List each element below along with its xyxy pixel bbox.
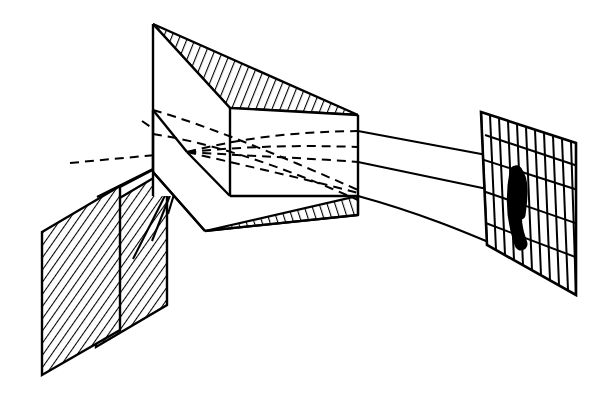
prism-spectroscope-diagram [0, 0, 600, 402]
exit-ray-bottom [358, 196, 505, 249]
projection-screen [478, 112, 578, 295]
exit-ray-middle [358, 162, 492, 190]
prism [145, 15, 370, 240]
exit-ray-top [358, 131, 492, 156]
diagram-canvas [0, 0, 600, 402]
